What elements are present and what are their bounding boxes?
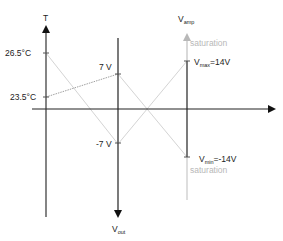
- t-high-label: 26.5°C: [5, 48, 31, 58]
- saturation-bottom-label: saturation: [190, 165, 228, 175]
- mapping-line-vout-neg-to-vmax: [118, 61, 187, 144]
- mapping-line-vout-pos-to-vmin: [118, 74, 187, 157]
- temperature-axis-label: T: [43, 13, 48, 23]
- vamp-axis-label: Vamp: [178, 14, 194, 25]
- vout-pos-label: 7 V: [99, 62, 112, 72]
- t-low-label: 23.5°C: [10, 92, 36, 102]
- vout-neg-label: -7 V: [96, 139, 112, 149]
- transfer-diagram: T 26.5°C 23.5°C Vout 7 V -7 V Vamp Vmax=…: [0, 0, 283, 241]
- vmax-label: Vmax=14V: [194, 57, 230, 68]
- saturation-top-label: saturation: [190, 38, 228, 48]
- mapping-line-tlow-to-vout-pos: [46, 74, 118, 97]
- vout-axis-label: Vout: [112, 224, 126, 235]
- vmin-label: Vmin=-14V: [199, 154, 237, 165]
